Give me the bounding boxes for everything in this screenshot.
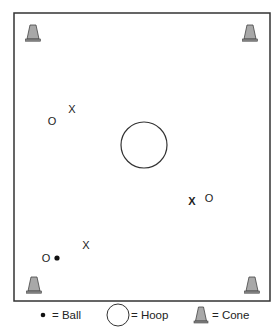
legend-ball-icon bbox=[41, 313, 46, 318]
legend-ball-label: = Ball bbox=[52, 309, 81, 321]
player-defense-marker: X bbox=[82, 239, 90, 251]
drill-diagram: O X X O X O = Ball = Hoop = Cone bbox=[0, 0, 278, 331]
legend-cone-label: = Cone bbox=[212, 309, 249, 321]
player-defense-marker: X bbox=[188, 195, 196, 207]
player-offense-marker: O bbox=[42, 252, 51, 264]
player-offense-marker: O bbox=[48, 115, 57, 127]
player-defense-marker: X bbox=[68, 103, 76, 115]
cone-icon bbox=[243, 25, 258, 41]
legend-hoop-label: = Hoop bbox=[131, 309, 168, 321]
legend-hoop-icon bbox=[107, 304, 129, 326]
hoop-icon bbox=[121, 122, 167, 168]
cone-icon bbox=[26, 25, 41, 41]
player-offense-marker: O bbox=[205, 192, 214, 204]
legend-cone-icon bbox=[194, 307, 208, 323]
ball-icon bbox=[54, 255, 59, 260]
cone-icon bbox=[245, 277, 260, 293]
cone-icon bbox=[27, 277, 42, 293]
legend: = Ball = Hoop = Cone bbox=[41, 304, 250, 326]
field-boundary bbox=[14, 13, 270, 301]
